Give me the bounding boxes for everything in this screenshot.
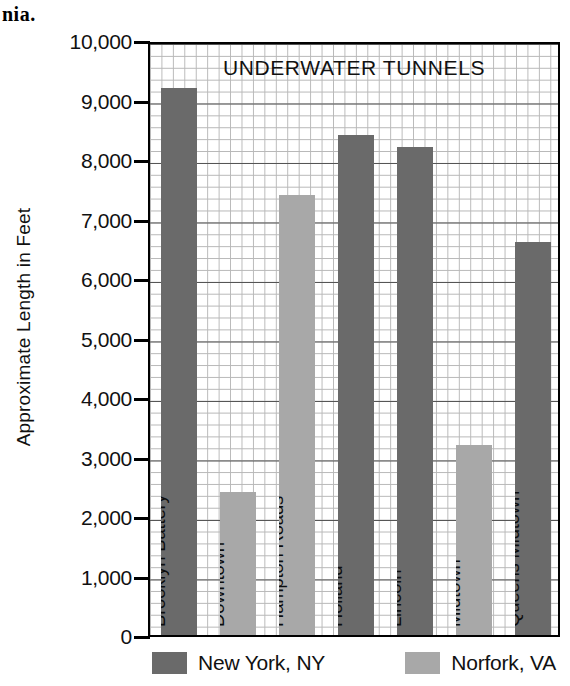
bar-category-label: Holland [338,566,347,627]
legend-label: Norfork, VA [451,651,556,675]
y-axis-tick-labels: 10,0009,0008,0007,0006,0005,0004,0003,00… [36,42,132,637]
y-tick-label: 2,000 [81,506,132,530]
bar-category-label: Midtown [456,560,465,628]
bar-group: Brooklyn BatteryDowntownHampton RoadsHol… [150,44,558,635]
y-tick-label: 6,000 [81,268,132,292]
plot-area: UNDERWATER TUNNELS Brooklyn BatteryDownt… [148,42,560,637]
bar-category-label: Brooklyn Battery [161,494,170,627]
bar-category-label: Hampton Roads [279,496,288,627]
bar: Holland [338,135,374,635]
y-tick-label: 1,000 [81,566,132,590]
bar: Brooklyn Battery [161,88,197,635]
y-tick-label: 7,000 [81,209,132,233]
bar-category-label: Downtown [220,542,229,627]
bar: Queens Midtown [515,242,551,635]
chart-title: UNDERWATER TUNNELS [150,56,558,80]
y-tick-label: 4,000 [81,387,132,411]
y-tick-label: 9,000 [81,90,132,114]
y-tick-label: 8,000 [81,149,132,173]
bar-chart-figure: Approximate Length in Feet 10,0009,0008,… [0,0,570,686]
y-axis-title: Approximate Length in Feet [13,107,35,547]
legend-label: New York, NY [198,651,325,675]
bar: Downtown [220,492,256,635]
y-tick-label: 5,000 [81,328,132,352]
bar-category-label: Queens Midtown [515,491,524,627]
y-tick-label: 10,000 [70,30,132,54]
legend-color-swatch [152,652,187,674]
y-tick-label: 0 [121,625,132,649]
bar: Lincoln [397,147,433,635]
legend-item: New York, NY [152,651,325,675]
bar: Hampton Roads [279,195,315,635]
y-tick-label: 3,000 [81,447,132,471]
legend-item: Norfork, VA [405,651,556,675]
bar-category-label: Lincoln [397,570,406,627]
bar: Midtown [456,445,492,635]
legend-color-swatch [405,652,440,674]
chart-legend: New York, NYNorfork, VA [148,648,560,678]
